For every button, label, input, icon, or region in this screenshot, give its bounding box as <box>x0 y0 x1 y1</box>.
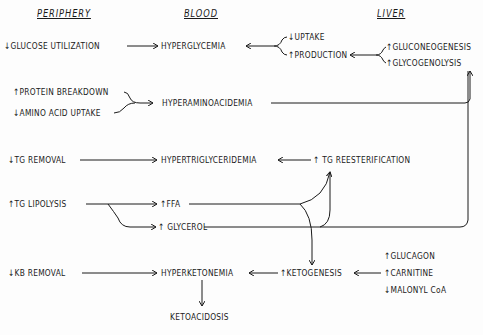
hyperaminoacidemia-label: HYPERAMINOACIDEMIA <box>162 98 253 108</box>
ketoacidosis-label: KETOACIDOSIS <box>170 312 229 322</box>
gluconeogenesis-label: ↑GLUCONEOGENESIS <box>386 42 471 52</box>
carnitine-label: ↑CARNITINE <box>384 268 433 278</box>
ffa-label: ↑FFA <box>160 199 180 209</box>
hypertriglyceridemia-label: HYPERTRIGLYCERIDEMIA <box>161 155 257 165</box>
tg-reesterification-label: ↑ TG REESTERIFICATION <box>313 155 410 165</box>
hyperglycemia-label: HYPERGLYCEMIA <box>161 41 226 51</box>
hyperketonemia-label: HYPERKETONEMIA <box>161 268 233 278</box>
tg-removal-label: ↓TG REMOVAL <box>8 155 66 165</box>
periphery-header: PERIPHERY <box>37 9 91 19</box>
glycogenolysis-label: ↑GLYCOGENOLYSIS <box>386 58 462 68</box>
tg-lipolysis-label: ↑TG LIPOLYSIS <box>8 199 66 209</box>
metabolic-pathway-diagram: PERIPHERY BLOOD LIVER ↓GLUCOSE UTILIZATI… <box>0 0 483 335</box>
production-label: ↑PRODUCTION <box>288 50 347 60</box>
glucagon-label: ↑GLUCAGON <box>384 251 435 261</box>
kb-removal-label: ↓KB REMOVAL <box>8 268 65 278</box>
amino-acid-uptake-label: ↓AMINO ACID UPTAKE <box>13 108 101 118</box>
glycerol-label: ↑ GLYCEROL <box>158 222 207 232</box>
protein-breakdown-label: ↑PROTEIN BREAKDOWN <box>13 87 109 97</box>
ketogenesis-label: ↑KETOGENESIS <box>280 268 342 278</box>
blood-header: BLOOD <box>184 9 218 19</box>
glucose-utilization-label: ↓GLUCOSE UTILIZATION <box>4 41 100 51</box>
malonyl-coa-label: ↓MALONYL CoA <box>384 285 446 295</box>
uptake-label: ↓UPTAKE <box>288 32 325 42</box>
liver-header: LIVER <box>377 9 405 19</box>
